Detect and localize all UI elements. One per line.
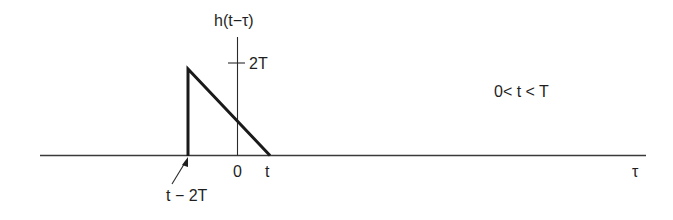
- condition-label: 0< t < T: [494, 83, 549, 100]
- convolution-diagram: h(t−τ) 2T 0< t < T 0 t t − 2T τ: [0, 0, 673, 220]
- x-tick-origin: 0: [233, 163, 242, 180]
- y-tick-label: 2T: [249, 55, 268, 72]
- y-axis-label: h(t−τ): [214, 12, 254, 29]
- pulse-shape: [188, 69, 270, 156]
- arrow-icon: [172, 157, 188, 184]
- x-tick-start: t − 2T: [166, 187, 208, 204]
- x-axis-label: τ: [632, 163, 639, 180]
- x-tick-t: t: [265, 163, 270, 180]
